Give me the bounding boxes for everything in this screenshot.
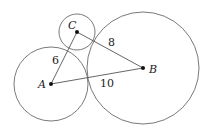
length-label-cb: 8 bbox=[108, 36, 115, 49]
label-a: A bbox=[37, 78, 46, 91]
three-tangent-circles-diagram: A B C 6 8 10 bbox=[0, 0, 211, 136]
point-a bbox=[49, 82, 53, 86]
label-c: C bbox=[68, 19, 77, 32]
point-b bbox=[141, 66, 145, 70]
label-b: B bbox=[148, 63, 157, 76]
length-label-ab: 10 bbox=[100, 77, 114, 90]
segment-ab bbox=[51, 68, 143, 84]
length-label-ac: 6 bbox=[52, 54, 59, 67]
